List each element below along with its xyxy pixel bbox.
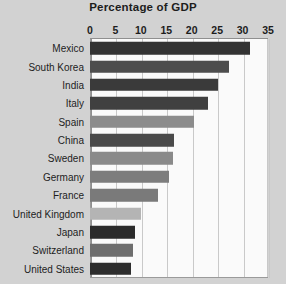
x-tick-10: 10 — [135, 24, 147, 36]
bar-india — [90, 79, 218, 92]
bar-row: India — [0, 76, 286, 94]
bar-row: China — [0, 131, 286, 149]
category-label-united-kingdom: United Kingdom — [0, 208, 84, 219]
x-tick-35: 35 — [262, 24, 274, 36]
bar-row: Spain — [0, 113, 286, 131]
category-label-switzerland: Switzerland — [0, 245, 84, 256]
bar-mexico — [90, 42, 250, 55]
bar-italy — [90, 97, 208, 110]
bar-united-states — [90, 263, 131, 276]
bar-united-kingdom — [90, 207, 141, 220]
bar-chart: Percentage of GDP 05101520253035 MexicoS… — [0, 0, 286, 284]
category-label-japan: Japan — [0, 227, 84, 238]
bar-france — [90, 189, 158, 202]
x-tick-30: 30 — [237, 24, 249, 36]
bar-row: South Korea — [0, 57, 286, 75]
bar-row: Switzerland — [0, 241, 286, 259]
category-label-france: France — [0, 190, 84, 201]
bar-rows: MexicoSouth KoreaIndiaItalySpainChinaSwe… — [0, 39, 286, 278]
bar-south-korea — [90, 60, 229, 73]
x-tick-15: 15 — [160, 24, 172, 36]
x-tick-5: 5 — [113, 24, 119, 36]
category-label-mexico: Mexico — [0, 43, 84, 54]
x-tick-20: 20 — [186, 24, 198, 36]
x-axis-tick-labels: 05101520253035 — [0, 24, 286, 38]
bar-row: United States — [0, 260, 286, 278]
bar-row: France — [0, 186, 286, 204]
bar-japan — [90, 226, 135, 239]
x-tick-0: 0 — [87, 24, 93, 36]
chart-title: Percentage of GDP — [0, 1, 286, 13]
category-label-china: China — [0, 135, 84, 146]
bar-row: Mexico — [0, 39, 286, 57]
category-label-spain: Spain — [0, 116, 84, 127]
category-label-italy: Italy — [0, 98, 84, 109]
bar-row: Italy — [0, 94, 286, 112]
bar-switzerland — [90, 244, 133, 257]
bar-spain — [90, 115, 194, 128]
bar-sweden — [90, 152, 173, 165]
category-label-united-states: United States — [0, 263, 84, 274]
bar-row: Sweden — [0, 149, 286, 167]
category-label-germany: Germany — [0, 171, 84, 182]
category-label-india: India — [0, 79, 84, 90]
bar-germany — [90, 171, 169, 184]
bar-china — [90, 134, 174, 147]
bar-row: United Kingdom — [0, 204, 286, 222]
x-tick-25: 25 — [211, 24, 223, 36]
category-label-south-korea: South Korea — [0, 61, 84, 72]
category-label-sweden: Sweden — [0, 153, 84, 164]
bar-row: Japan — [0, 223, 286, 241]
bar-row: Germany — [0, 168, 286, 186]
